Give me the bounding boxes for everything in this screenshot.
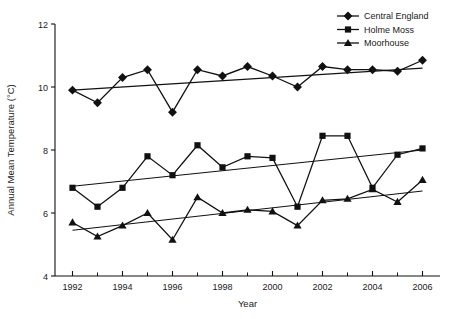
legend-item-moorhouse[interactable]: Moorhouse bbox=[337, 38, 409, 48]
data-point-triangle bbox=[143, 209, 151, 216]
series-central-england bbox=[68, 56, 427, 117]
data-point-square bbox=[344, 133, 350, 139]
y-axis-title: Annual Mean Temperature (°C) bbox=[5, 84, 16, 215]
y-axis-tick-label: 4 bbox=[43, 272, 48, 282]
data-point-square bbox=[394, 152, 400, 158]
data-point-square bbox=[219, 164, 225, 170]
data-point-square bbox=[269, 155, 275, 161]
x-axis-title: Year bbox=[238, 298, 257, 309]
x-axis-tick-label: 1998 bbox=[212, 282, 232, 292]
data-point-diamond bbox=[268, 72, 277, 81]
y-axis-tick-label: 8 bbox=[43, 146, 48, 156]
data-point-square bbox=[94, 204, 100, 210]
data-point-square bbox=[319, 133, 325, 139]
x-axis-tick-label: 2000 bbox=[262, 282, 282, 292]
y-axis-tick-label: 6 bbox=[43, 209, 48, 219]
data-point-diamond bbox=[68, 86, 77, 95]
y-axis-tick-label: 12 bbox=[38, 20, 48, 30]
y-axis-tick-label: 10 bbox=[38, 83, 48, 93]
x-axis-tick-label: 1992 bbox=[62, 282, 82, 292]
data-point-square bbox=[169, 172, 175, 178]
data-point-square bbox=[69, 185, 75, 191]
legend-item-central-england[interactable]: Central England bbox=[337, 11, 429, 21]
data-point-square bbox=[419, 145, 425, 151]
legend-item-label: Central England bbox=[364, 11, 429, 21]
data-point-triangle bbox=[243, 206, 251, 213]
legend-item-holme-moss[interactable]: Holme Moss bbox=[337, 25, 415, 35]
data-point-diamond bbox=[393, 67, 402, 76]
data-point-diamond bbox=[243, 62, 252, 71]
data-point-diamond bbox=[143, 65, 152, 74]
legend-item-label: Moorhouse bbox=[364, 38, 409, 48]
data-point-diamond bbox=[218, 72, 227, 81]
series-line bbox=[73, 136, 423, 207]
x-axis-tick-label: 1994 bbox=[112, 282, 132, 292]
data-point-diamond bbox=[418, 56, 427, 65]
data-point-triangle bbox=[193, 193, 201, 200]
data-point-square bbox=[119, 185, 125, 191]
data-point-square bbox=[345, 26, 351, 32]
data-point-square bbox=[244, 153, 250, 159]
data-point-diamond bbox=[193, 65, 202, 74]
x-axis-tick-label: 2004 bbox=[362, 282, 382, 292]
data-point-diamond bbox=[168, 108, 177, 117]
data-point-triangle bbox=[418, 176, 426, 183]
data-point-square bbox=[194, 142, 200, 148]
chart-container: 468101219921994199619982000200220042006Y… bbox=[0, 0, 458, 319]
legend: Central EnglandHolme MossMoorhouse bbox=[337, 11, 429, 48]
series-holme-moss bbox=[69, 133, 425, 210]
line-chart: 468101219921994199619982000200220042006Y… bbox=[0, 0, 458, 319]
data-point-diamond bbox=[368, 65, 377, 74]
data-point-diamond bbox=[344, 12, 353, 21]
data-point-square bbox=[144, 153, 150, 159]
x-axis-tick-label: 2002 bbox=[312, 282, 332, 292]
legend-item-label: Holme Moss bbox=[364, 25, 415, 35]
x-axis-tick-label: 1996 bbox=[162, 282, 182, 292]
x-axis-tick-label: 2006 bbox=[412, 282, 432, 292]
data-point-triangle bbox=[68, 218, 76, 225]
